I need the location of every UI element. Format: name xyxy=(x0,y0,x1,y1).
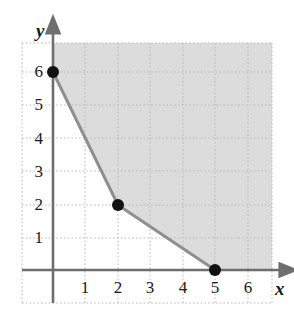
x-tick-label-2: 2 xyxy=(108,279,128,296)
y-tick-label-5: 5 xyxy=(25,96,43,113)
y-tick-label-6: 6 xyxy=(25,63,43,80)
y-tick-label-3: 3 xyxy=(25,163,43,180)
x-axis-label: x xyxy=(275,279,285,298)
x-tick-label-6: 6 xyxy=(238,279,258,296)
x-tick-label-1: 1 xyxy=(75,279,95,296)
vertex-point-5-0 xyxy=(209,264,221,276)
vertex-point-2-2 xyxy=(112,199,124,211)
coordinate-plane xyxy=(0,0,294,312)
graph-figure: y x 1 2 3 4 5 6 1 2 3 4 5 6 xyxy=(0,0,294,312)
vertex-point-0-6 xyxy=(47,66,59,78)
y-tick-label-1: 1 xyxy=(25,229,43,246)
x-tick-label-4: 4 xyxy=(173,279,193,296)
y-axis-label: y xyxy=(36,21,44,40)
y-tick-label-2: 2 xyxy=(25,196,43,213)
x-tick-label-5: 5 xyxy=(205,279,225,296)
y-tick-label-4: 4 xyxy=(25,130,43,147)
x-tick-label-3: 3 xyxy=(140,279,160,296)
